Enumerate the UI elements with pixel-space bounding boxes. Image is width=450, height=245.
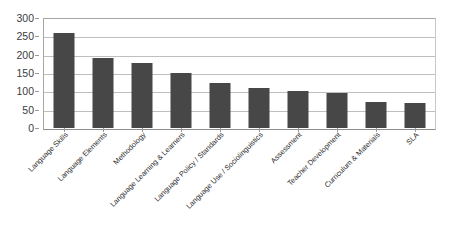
bar[interactable] — [131, 63, 152, 128]
bar-slot — [83, 18, 122, 128]
bar-slot — [278, 18, 317, 128]
bar-slot — [239, 18, 278, 128]
y-tick-label: 100 — [16, 86, 34, 97]
y-tick-mark — [35, 91, 39, 92]
bar[interactable] — [92, 58, 113, 128]
x-axis: Language SkillsLanguage ElementsMethodol… — [44, 131, 434, 241]
y-tick-label: 250 — [16, 31, 34, 42]
bar[interactable] — [248, 88, 269, 128]
bar[interactable] — [287, 91, 308, 128]
y-tick-label: 0 — [28, 123, 34, 134]
bar[interactable] — [404, 103, 425, 128]
bar[interactable] — [209, 83, 230, 128]
bar-slot — [356, 18, 395, 128]
bar[interactable] — [170, 73, 191, 128]
bar-slot — [395, 18, 434, 128]
y-tick-mark — [35, 55, 39, 56]
y-tick-label: 200 — [16, 49, 34, 60]
bar-slot — [44, 18, 83, 128]
y-tick-mark — [35, 36, 39, 37]
bar-slot — [317, 18, 356, 128]
y-tick-mark — [35, 18, 39, 19]
bar-slot — [161, 18, 200, 128]
x-tick-label: SLA — [273, 131, 420, 245]
bars-layer — [44, 18, 434, 128]
bar-slot — [200, 18, 239, 128]
y-axis: 300250200150100500 — [0, 18, 39, 128]
bar-chart: 300250200150100500 Language SkillsLangua… — [0, 0, 450, 245]
y-tick-label: 150 — [16, 68, 34, 79]
y-tick-label: 50 — [22, 104, 34, 115]
y-tick-label: 300 — [16, 13, 34, 24]
bar[interactable] — [326, 93, 347, 128]
bar-slot — [122, 18, 161, 128]
bar[interactable] — [53, 33, 74, 128]
bar[interactable] — [365, 102, 386, 128]
y-tick-mark — [35, 128, 39, 129]
y-tick-mark — [35, 73, 39, 74]
y-tick-mark — [35, 110, 39, 111]
